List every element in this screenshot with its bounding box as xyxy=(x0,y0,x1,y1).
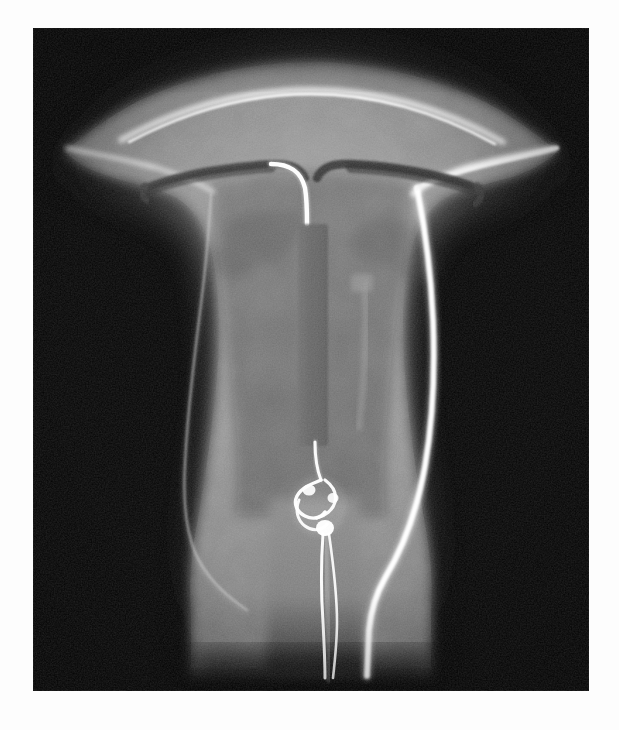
radiograph-figure xyxy=(0,0,619,730)
radiograph-image xyxy=(33,28,589,691)
radiograph-plate xyxy=(33,28,589,691)
iud-strings-knot xyxy=(291,476,347,536)
margin-shading xyxy=(33,28,589,73)
